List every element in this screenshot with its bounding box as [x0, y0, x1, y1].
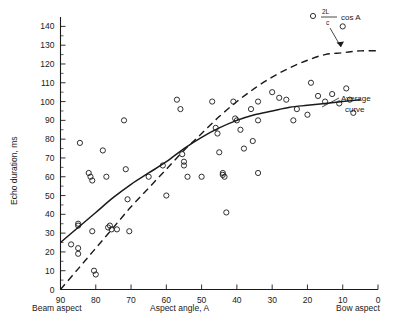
- formula-denominator: c: [326, 19, 330, 26]
- scatter-point: [123, 167, 128, 172]
- scatter-point: [164, 193, 169, 198]
- formula-numerator: 2L: [322, 8, 330, 15]
- formula-arrowhead: [337, 42, 345, 48]
- theoretical-curve-dashed: [61, 51, 379, 290]
- x-tick-label: 70: [126, 295, 136, 305]
- scatter-point: [180, 152, 185, 157]
- scatter-point: [241, 146, 246, 151]
- y-tick-label: 20: [45, 247, 55, 257]
- y-tick-label: 90: [45, 115, 55, 125]
- scatter-point: [90, 229, 95, 234]
- average-curve-label-line2: curve: [345, 105, 365, 114]
- beam-aspect-label: Beam aspect: [32, 303, 82, 313]
- y-tick-marks: [61, 26, 66, 289]
- y-tick-label: 50: [45, 191, 55, 201]
- scatter-point: [330, 91, 335, 96]
- chart-figure: 0102030405060708090100110120130140 Echo …: [0, 0, 409, 319]
- y-tick-labels: 0102030405060708090100110120130140: [40, 21, 54, 294]
- scatter-point: [340, 24, 345, 29]
- scatter-point: [291, 118, 296, 123]
- scatter-point: [104, 174, 109, 179]
- scatter-point: [250, 138, 255, 143]
- x-axis-group: 9080706050403020100 Aspect angle, A Beam…: [32, 285, 381, 314]
- scatter-point: [294, 106, 299, 111]
- scatter-point: [77, 140, 82, 145]
- scatter-point: [315, 93, 320, 98]
- scatter-point: [305, 112, 310, 117]
- scatter-point: [121, 118, 126, 123]
- x-axis-title: Aspect angle, A: [150, 303, 209, 313]
- scatter-point: [174, 97, 179, 102]
- formula-annotation: 2L c cos A: [310, 8, 361, 47]
- scatter-point: [146, 174, 151, 179]
- y-tick-label: 130: [40, 40, 54, 50]
- scatter-point: [248, 106, 253, 111]
- x-tick-label: 40: [232, 295, 242, 305]
- scatter-point: [217, 150, 222, 155]
- x-tick-label: 20: [303, 295, 313, 305]
- y-tick-label: 10: [45, 266, 55, 276]
- scatter-point: [181, 163, 186, 168]
- x-tick-label: 30: [267, 295, 277, 305]
- x-tick-labels: 9080706050403020100: [56, 295, 381, 305]
- scatter-point: [185, 174, 190, 179]
- average-curve-solid: [61, 100, 361, 243]
- scatter-point: [199, 174, 204, 179]
- scatter-point: [224, 210, 229, 215]
- formula-suffix: cos A: [341, 13, 361, 22]
- y-axis-group: 0102030405060708090100110120130140 Echo …: [9, 17, 66, 295]
- y-tick-label: 60: [45, 172, 55, 182]
- scatter-point: [270, 90, 275, 95]
- scatter-point: [178, 106, 183, 111]
- scatter-point: [255, 170, 260, 175]
- average-curve-label-line1: Average: [341, 94, 371, 103]
- scatter-point: [215, 131, 220, 136]
- scatter-point: [238, 127, 243, 132]
- scatter-point: [255, 99, 260, 104]
- y-tick-label: 110: [41, 78, 55, 88]
- y-tick-label: 140: [40, 21, 54, 31]
- y-tick-label: 70: [45, 153, 55, 163]
- formula-marker-circle: [310, 13, 315, 18]
- scatter-points: [68, 24, 355, 277]
- scatter-point: [100, 148, 105, 153]
- y-axis-title: Echo duration, ms: [9, 136, 19, 205]
- scatter-point: [210, 99, 215, 104]
- x-tick-label: 80: [91, 295, 101, 305]
- y-tick-label: 0: [50, 285, 55, 295]
- y-tick-label: 80: [45, 134, 55, 144]
- bow-aspect-label: Bow aspect: [336, 303, 381, 313]
- scatter-point: [284, 97, 289, 102]
- scatter-point: [308, 80, 313, 85]
- y-tick-label: 40: [45, 209, 55, 219]
- y-tick-label: 100: [40, 97, 54, 107]
- y-tick-label: 30: [45, 228, 55, 238]
- scatter-point: [231, 99, 236, 104]
- scatter-point: [255, 118, 260, 123]
- scatter-point: [127, 229, 132, 234]
- x-tick-marks: [61, 285, 379, 290]
- chart-svg: 0102030405060708090100110120130140 Echo …: [0, 0, 409, 319]
- y-tick-label: 120: [40, 59, 54, 69]
- scatter-point: [125, 197, 130, 202]
- scatter-point: [344, 86, 349, 91]
- scatter-point: [76, 246, 81, 251]
- scatter-point: [76, 251, 81, 256]
- average-curve-annotation: Average curve: [322, 94, 371, 114]
- scatter-point: [68, 242, 73, 247]
- scatter-point: [277, 95, 282, 100]
- scatter-point: [114, 227, 119, 232]
